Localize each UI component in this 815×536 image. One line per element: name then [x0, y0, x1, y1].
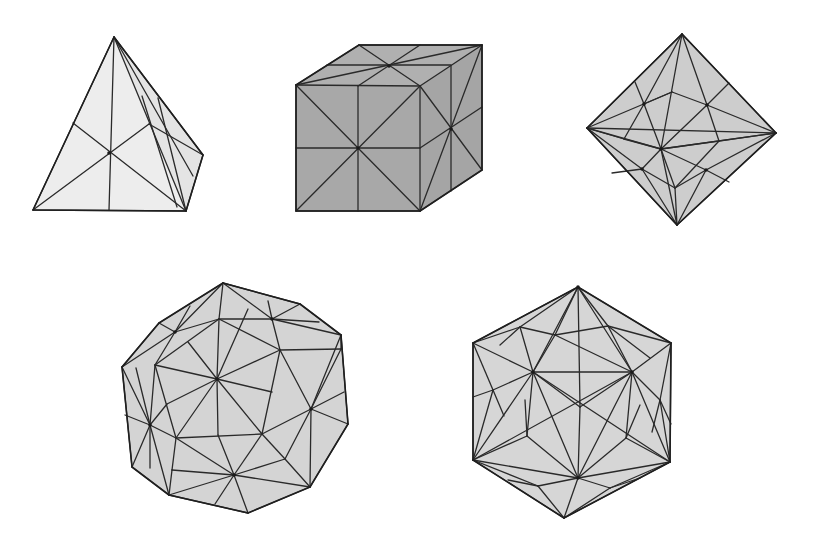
dodecahedron-vertex-dot: [148, 423, 152, 427]
dodecahedron: [122, 283, 348, 513]
dodecahedron-vertex-dot: [270, 317, 274, 321]
icosahedron-vertex-dot: [630, 370, 634, 374]
dodecahedron-vertex-dot: [232, 473, 236, 477]
icosahedron: [473, 285, 671, 518]
polyhedra-figure: [0, 0, 815, 536]
octahedron-vertex-dot: [705, 103, 709, 107]
dodecahedron-vertex-dot: [309, 407, 313, 411]
cube-vertex-dot: [387, 64, 391, 68]
octahedron-vertex-dot: [659, 147, 663, 151]
cube: [296, 45, 482, 211]
icosahedron-vertex-dot: [576, 476, 580, 480]
icosahedron-face: [473, 287, 671, 518]
cube-vertex-dot: [449, 127, 453, 131]
icosahedron-vertex-dot: [531, 370, 535, 374]
dodecahedron-vertex-dot: [215, 377, 219, 381]
dodecahedron-vertex-dot: [173, 330, 177, 334]
tetrahedron: [33, 37, 203, 211]
icosahedron-vertex-dot: [576, 285, 580, 289]
octahedron: [587, 34, 776, 225]
cube-vertex-dot: [356, 146, 360, 150]
octahedron-vertex-dot: [704, 168, 708, 172]
tetrahedron-vertex-dot: [107, 151, 111, 155]
octahedron-vertex-dot: [642, 102, 646, 106]
octahedron-vertex-dot: [640, 167, 644, 171]
